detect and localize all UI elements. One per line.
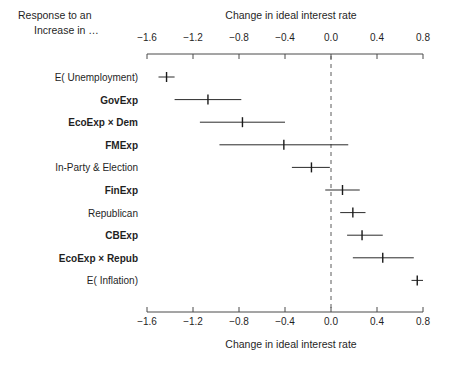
plot-canvas (0, 0, 449, 366)
forest-plot: Response to an Increase in … Change in i… (0, 0, 449, 366)
